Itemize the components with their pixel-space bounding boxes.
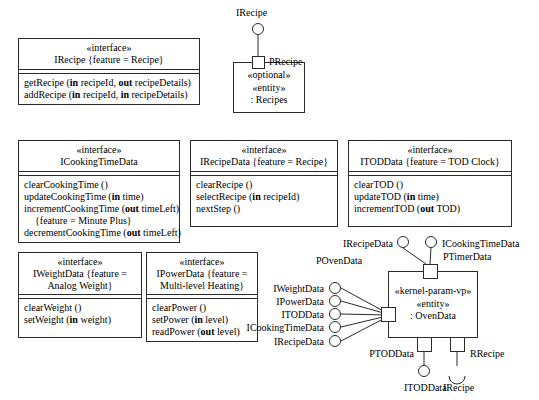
provided-interface-icon-ipowerdata	[329, 295, 341, 307]
provided-interface-icon-irecipe	[252, 23, 264, 35]
port-rrecipe	[450, 337, 465, 352]
port-label-ptoddata: PTODData	[355, 349, 414, 359]
interface-label-irecipe: IRecipe	[236, 8, 267, 18]
port-precipe	[252, 56, 265, 69]
port-ptimerdata	[423, 264, 438, 279]
port-povendata	[381, 307, 396, 322]
provided-interface-icon-itoddata-ptoddata	[418, 365, 430, 377]
provided-interface-icon-irecipedata-ptimerdata	[397, 236, 409, 248]
diagram-canvas: «interface» IRecipe {feature = Recipe} g…	[0, 0, 539, 400]
interface-label-irecipedata-ptimerdata: IRecipeData	[333, 239, 393, 249]
port-ptoddata	[417, 337, 432, 352]
interface-label-ipowerdata: IPowerData	[238, 297, 324, 307]
interface-label-itoddata-ptoddata: ITODData	[404, 383, 447, 393]
port-label-povendata: POvenData	[316, 256, 362, 266]
port-label-rrecipe: RRecipe	[470, 349, 504, 359]
provided-interface-icon-icookingtimedata-ptimerdata	[425, 236, 437, 248]
provided-interface-icon-itoddata	[329, 308, 341, 320]
provided-interface-icon-irecipedata-povendata	[329, 335, 341, 347]
interface-label-iweightdata: IWeightData	[238, 284, 324, 294]
interface-label-irecipe-rrecipe: IRecipe	[443, 383, 474, 393]
interface-label-irecipedata-povendata: IRecipeData	[238, 337, 324, 347]
provided-interface-icon-icookingtimedata	[329, 321, 341, 333]
interface-label-itoddata: ITODData	[238, 310, 324, 320]
interface-label-icookingtimedata-ptimerdata: ICookingTimeData	[442, 239, 519, 249]
interface-label-icookingtimedata: ICookingTimeData	[218, 323, 324, 333]
port-label-ptimerdata: PTimerData	[443, 252, 492, 262]
port-label-precipe: PRecipe	[269, 57, 302, 67]
provided-interface-icon-iweightdata	[329, 282, 341, 294]
